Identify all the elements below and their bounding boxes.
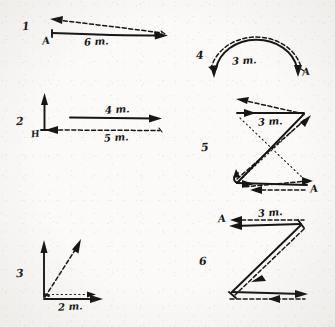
vertical-up-arrow-head <box>41 240 48 253</box>
dashed-z-diagonal <box>237 119 306 179</box>
solid-z-bottom-bar <box>232 292 302 294</box>
vertical-up-arrow-head <box>41 93 48 105</box>
left-corner-curl-head <box>233 169 240 178</box>
dashed-z-diagonal <box>235 229 304 295</box>
figure-1: 1 A 6 m. <box>0 0 180 90</box>
figure-5-strokes <box>180 95 335 205</box>
dashed-left-arrow-line <box>57 20 162 33</box>
dashed-z-lower-return-head <box>250 186 262 194</box>
figure-4-strokes <box>180 25 335 100</box>
figure-3: 3 2 m. <box>0 225 180 327</box>
solid-z-top-bar <box>234 224 301 226</box>
solid-z-bottom-head <box>295 290 308 298</box>
dashed-z-bottom-head <box>302 177 313 185</box>
figure-3-strokes <box>0 225 180 327</box>
figure-1-strokes <box>0 0 180 90</box>
solid-z-diagonal <box>232 225 301 292</box>
dashed-left-arrow-head <box>50 16 63 24</box>
solid-right-arrow-head <box>149 115 162 123</box>
dashed-z-top-head <box>236 97 249 104</box>
dashed-z-top-head <box>230 216 242 224</box>
dotted-cross-line-1 <box>240 118 308 183</box>
dashed-left-arrow-head <box>45 126 58 134</box>
figure-6-strokes <box>180 203 335 327</box>
worksheet-page: 1 A 6 m. 2 H 4 m. 5 m. <box>0 0 335 327</box>
dashed-z-diagonal-head <box>251 275 266 282</box>
dashed-left-arrow-line <box>52 130 160 131</box>
dashed-z-bottom-head <box>268 295 280 303</box>
figure-6: 6 A 3 m. <box>180 203 335 327</box>
solid-arc <box>216 40 297 69</box>
solid-right-arrow-head <box>90 295 103 303</box>
dashed-diagonal-arrow-line <box>45 247 77 297</box>
figure-4: 4 A 3 m. <box>180 25 335 100</box>
figure-2: 2 H 4 m. 5 m. <box>0 90 180 170</box>
solid-right-arrow-head <box>154 32 168 40</box>
solid-right-arrow-line <box>70 118 155 119</box>
figure-2-strokes <box>0 90 180 170</box>
figure-5: 5 A 3 m. <box>180 95 335 205</box>
solid-z-top-bar-head <box>244 109 256 117</box>
solid-right-arrow-line <box>52 33 160 36</box>
